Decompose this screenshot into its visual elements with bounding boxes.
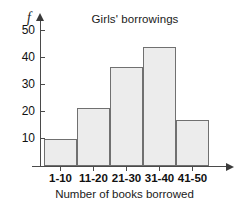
y-tick-mark-40 (41, 57, 45, 58)
x-axis-title: Number of books borrowed (22, 188, 227, 200)
y-axis-line (40, 20, 41, 167)
x-tick-mark-3 (126, 167, 127, 171)
x-tick-mark-2 (93, 167, 94, 171)
y-tick-label-30: 30 (11, 78, 35, 90)
bar-41-50 (176, 120, 209, 166)
y-tick-label-10: 10 (11, 132, 35, 144)
bar-11-20 (77, 108, 110, 166)
bar-1-10 (44, 139, 77, 166)
y-tick-label-50: 50 (11, 24, 35, 36)
x-tick-mark-1 (60, 167, 61, 171)
y-axis-arrow-icon (36, 13, 44, 21)
y-tick-mark-50 (41, 30, 45, 31)
y-tick-label-20: 20 (11, 105, 35, 117)
y-tick-mark-30 (41, 84, 45, 85)
bar-31-40 (143, 47, 176, 166)
y-tick-label-40: 40 (11, 51, 35, 63)
y-tick-mark-20 (41, 111, 45, 112)
x-tick-mark-5 (192, 167, 193, 171)
x-tick-label-41-50: 41-50 (173, 172, 213, 184)
x-tick-mark-4 (159, 167, 160, 171)
plot-area: f 10 20 30 40 50 1-10 11-20 21-30 31-40 … (0, 0, 244, 206)
x-axis-arrow-icon (226, 163, 234, 171)
histogram-chart: Girls' borrowings f 10 20 30 40 50 (0, 0, 244, 206)
bar-21-30 (110, 67, 143, 166)
